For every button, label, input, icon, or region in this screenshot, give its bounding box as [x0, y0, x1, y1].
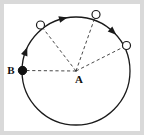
direction-arrow-icon — [21, 47, 27, 56]
label-point-b: B — [7, 64, 15, 76]
figure-frame: A B — [0, 0, 144, 135]
position-marker-filled-b — [18, 66, 26, 74]
position-marker-open — [37, 21, 45, 29]
direction-arrow-icon — [58, 16, 67, 23]
position-marker-group — [37, 11, 131, 50]
radius-line-to-b — [23, 71, 77, 72]
radius-line-to-p3 — [76, 46, 127, 72]
radius-line-to-p1 — [41, 25, 77, 71]
position-marker-open — [123, 42, 131, 50]
circular-motion-diagram: A B — [0, 0, 144, 135]
label-center-a: A — [75, 73, 83, 85]
position-marker-open — [92, 11, 100, 19]
center-point-a — [75, 70, 77, 72]
